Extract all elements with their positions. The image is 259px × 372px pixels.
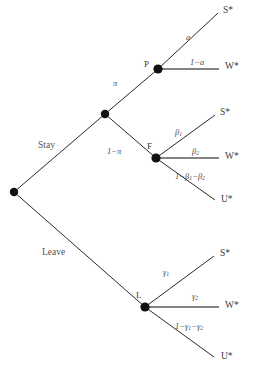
probability-label-one-minus-gamma1-gamma2: 1−γ1−γ2 <box>175 322 203 332</box>
choice-label-leave: Leave <box>42 248 65 258</box>
tree-node-p <box>153 64 162 73</box>
node-layer <box>10 64 163 311</box>
edge-l-to-unemployed <box>145 307 214 357</box>
edge-root-to-leave <box>14 192 145 307</box>
node-label-l: L <box>136 291 142 300</box>
probability-label-one-minus-a: 1−a <box>190 58 204 67</box>
outcome-label-f-wait: W* <box>225 152 239 162</box>
probability-label-gamma1: γ1 <box>163 268 169 278</box>
decision-tree-figure: Stay Leave P F L π 1−π a 1−a β1 β2 1−β1−… <box>0 0 259 372</box>
outcome-label-f-success: S* <box>220 108 230 118</box>
outcome-label-l-success: S* <box>220 249 230 259</box>
edge-chance-to-p <box>105 69 158 114</box>
probability-label-one-minus-pi: 1−π <box>107 147 121 156</box>
edge-l-to-success <box>145 256 214 307</box>
outcome-label-l-unemployed: U* <box>221 352 233 362</box>
tree-node-f <box>151 153 160 162</box>
tree-node-l <box>140 302 149 311</box>
tree-node-root <box>10 188 18 196</box>
choice-label-stay: Stay <box>38 141 55 151</box>
outcome-label-l-wait: W* <box>225 301 239 311</box>
outcome-label-p-wait: W* <box>225 62 239 72</box>
tree-edges-and-nodes <box>0 0 259 372</box>
probability-label-beta1: β1 <box>175 128 182 138</box>
edge-f-to-success <box>156 115 215 158</box>
tree-node-chance <box>101 110 109 118</box>
node-label-f: F <box>147 142 152 151</box>
probability-label-gamma2: γ2 <box>192 292 198 302</box>
probability-label-beta2: β2 <box>192 147 199 157</box>
probability-label-pi: π <box>113 79 117 88</box>
outcome-label-p-success: S* <box>223 6 233 16</box>
probability-label-a: a <box>186 33 190 42</box>
probability-label-one-minus-beta1-beta2: 1−β1−β2 <box>175 172 205 182</box>
edge-root-to-chance <box>14 114 105 192</box>
node-label-p: P <box>144 60 149 69</box>
edge-layer <box>14 13 219 357</box>
outcome-label-f-unemployed: U* <box>221 195 233 205</box>
